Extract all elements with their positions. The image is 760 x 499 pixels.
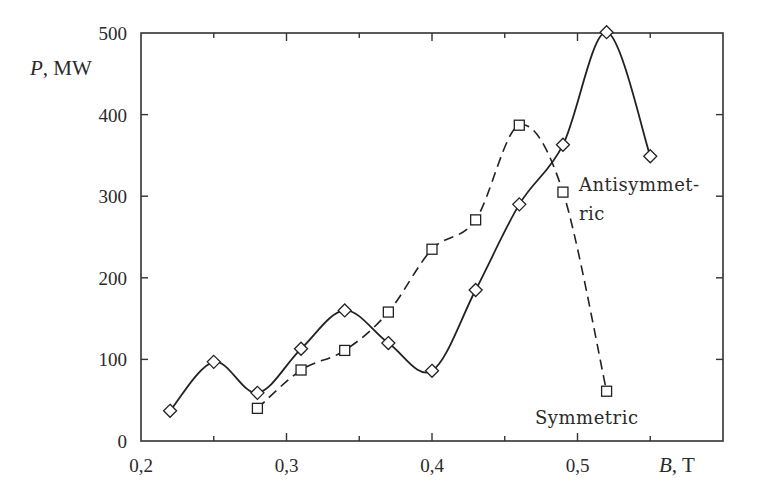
x-tick-label: 0,4	[420, 455, 444, 476]
square-marker	[602, 386, 612, 396]
square-marker	[427, 244, 437, 254]
diamond-marker	[469, 284, 482, 297]
y-tick-label: 100	[99, 349, 128, 370]
square-marker	[383, 307, 393, 317]
diamond-marker	[207, 355, 220, 368]
y-tick-label: 300	[99, 186, 128, 207]
square-marker	[252, 403, 262, 413]
diamond-marker	[644, 150, 657, 163]
y-axis-variable: P	[29, 56, 43, 80]
square-marker	[340, 345, 350, 355]
y-tick-label: 200	[99, 268, 128, 289]
square-marker	[471, 215, 481, 225]
x-tick-labels: 0,20,30,40,5	[129, 455, 589, 476]
square-marker	[558, 187, 568, 197]
diamond-marker	[513, 198, 526, 211]
x-axis-separator: ,	[672, 453, 682, 477]
y-axis-unit: MW	[53, 56, 92, 80]
antisymmetric-label-line1: Antisymmet-	[578, 174, 700, 195]
x-tick-label: 0,5	[566, 455, 590, 476]
y-axis-label: P, MW	[29, 56, 92, 80]
antisymmetric-label-line2: ric	[579, 203, 605, 224]
x-tick-label: 0,3	[275, 455, 299, 476]
diamond-marker	[251, 386, 264, 399]
diamond-marker	[556, 138, 569, 151]
axis-ticks	[141, 33, 723, 441]
x-axis-variable: B	[659, 453, 672, 477]
y-tick-label: 500	[99, 23, 128, 44]
x-axis-label: B, T	[659, 453, 695, 477]
plot-frame	[141, 33, 723, 441]
chart: 0100200300400500 0,20,30,40,5 P, MW B, T…	[0, 0, 760, 499]
x-axis-unit: T	[682, 453, 695, 477]
symmetric-label: Symmetric	[535, 407, 638, 428]
y-axis-separator: ,	[43, 56, 54, 80]
x-tick-label: 0,2	[129, 455, 153, 476]
square-marker	[296, 365, 306, 375]
y-tick-labels: 0100200300400500	[99, 23, 128, 452]
y-tick-label: 0	[118, 431, 128, 452]
diamond-marker	[338, 304, 351, 317]
y-tick-label: 400	[99, 105, 128, 126]
square-marker	[514, 120, 524, 130]
